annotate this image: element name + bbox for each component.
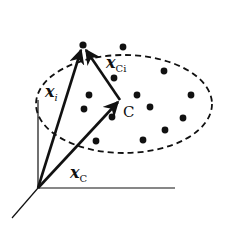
label-centroid-C: C	[123, 103, 134, 121]
label-xCi: xCi	[105, 53, 126, 74]
cluster-points	[81, 44, 195, 145]
point-xi	[79, 41, 86, 48]
diagonal-axis	[12, 188, 38, 218]
label-xi: xi	[44, 82, 58, 103]
coordinate-axes	[12, 100, 175, 218]
label-xC: xC	[69, 163, 88, 184]
cluster-vector-diagram: xi xCi xC C	[0, 0, 228, 226]
